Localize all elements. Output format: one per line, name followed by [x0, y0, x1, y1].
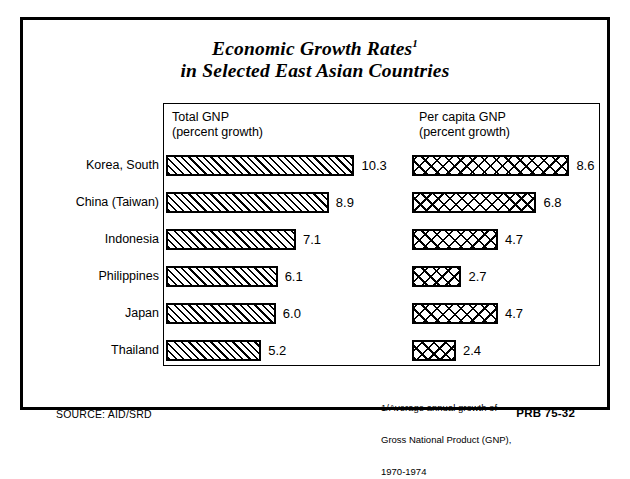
source-note: SOURCE: AID/SRD	[56, 408, 152, 420]
bar-group-total-gnp: 7.1	[166, 229, 321, 250]
footnote: 1/Average annual growth of Gross Nationa…	[381, 382, 511, 479]
bar-total-gnp	[166, 303, 276, 324]
bar-group-total-gnp: 6.0	[166, 303, 301, 324]
bar-group-total-gnp: 10.3	[166, 155, 387, 176]
category-label: Korea, South	[43, 153, 159, 190]
bar-group-per-capita-gnp: 2.4	[412, 340, 481, 361]
bar-total-gnp	[166, 192, 329, 213]
table-row: 10.3 8.6	[166, 153, 630, 190]
publication-code: PRB 75-32	[516, 407, 575, 419]
category-label: Indonesia	[43, 227, 159, 264]
bar-per-capita-gnp	[412, 192, 536, 213]
bar-value-total-gnp: 10.3	[361, 159, 386, 172]
bar-group-total-gnp: 8.9	[166, 192, 354, 213]
bar-group-per-capita-gnp: 4.7	[412, 229, 523, 250]
title-footnote-marker: 1	[412, 37, 418, 49]
bar-value-per-capita-gnp: 4.7	[505, 307, 523, 320]
bar-total-gnp	[166, 229, 296, 250]
bar-total-gnp	[166, 340, 261, 361]
bar-per-capita-gnp	[412, 340, 456, 361]
category-label: Japan	[43, 301, 159, 338]
footnote-line-1: 1/Average annual growth of	[381, 403, 511, 414]
footnote-line-3: 1970-1974	[381, 467, 511, 478]
bar-value-per-capita-gnp: 6.8	[543, 196, 561, 209]
figure-frame: Economic Growth Rates1 in Selected East …	[20, 17, 610, 410]
bar-value-total-gnp: 6.1	[285, 270, 303, 283]
chart-title-line-2: in Selected East Asian Countries	[23, 60, 607, 82]
footnote-line-2: Gross National Product (GNP),	[381, 435, 511, 446]
bar-group-per-capita-gnp: 6.8	[412, 192, 562, 213]
bar-group-per-capita-gnp: 2.7	[412, 266, 486, 287]
chart-title-line-1: Economic Growth Rates1	[23, 32, 607, 60]
table-row: 6.0 4.7	[166, 301, 630, 338]
bar-value-per-capita-gnp: 2.4	[463, 344, 481, 357]
table-row: 5.2 2.4	[166, 338, 630, 375]
category-label: Thailand	[43, 338, 159, 375]
bar-value-total-gnp: 8.9	[336, 196, 354, 209]
table-row: 6.1 2.7	[166, 264, 630, 301]
bar-value-per-capita-gnp: 4.7	[505, 233, 523, 246]
bar-value-total-gnp: 5.2	[268, 344, 286, 357]
bar-total-gnp	[166, 155, 354, 176]
bar-group-total-gnp: 5.2	[166, 340, 286, 361]
column-header-total-gnp: Total GNP(percent growth)	[172, 110, 263, 139]
bar-value-total-gnp: 7.1	[303, 233, 321, 246]
bar-per-capita-gnp	[412, 303, 498, 324]
category-label: China (Taiwan)	[43, 190, 159, 227]
table-row: 7.1 4.7	[166, 227, 630, 264]
bar-value-per-capita-gnp: 8.6	[576, 159, 594, 172]
bar-value-per-capita-gnp: 2.7	[468, 270, 486, 283]
bar-group-total-gnp: 6.1	[166, 266, 303, 287]
chart-title: Economic Growth Rates1 in Selected East …	[23, 32, 607, 82]
bar-per-capita-gnp	[412, 266, 461, 287]
bar-value-total-gnp: 6.0	[283, 307, 301, 320]
bar-per-capita-gnp	[412, 155, 569, 176]
bar-total-gnp	[166, 266, 278, 287]
bar-group-per-capita-gnp: 4.7	[412, 303, 523, 324]
column-header-per-capita-gnp: Per capita GNP(percent growth)	[419, 110, 510, 139]
category-label: Philippines	[43, 264, 159, 301]
bar-rows: 10.3 8.6 8.9 6.8 7.1 4.	[166, 153, 630, 383]
category-axis-labels: Korea, South China (Taiwan) Indonesia Ph…	[43, 153, 159, 375]
bar-group-per-capita-gnp: 8.6	[412, 155, 594, 176]
table-row: 8.9 6.8	[166, 190, 630, 227]
bar-per-capita-gnp	[412, 229, 498, 250]
